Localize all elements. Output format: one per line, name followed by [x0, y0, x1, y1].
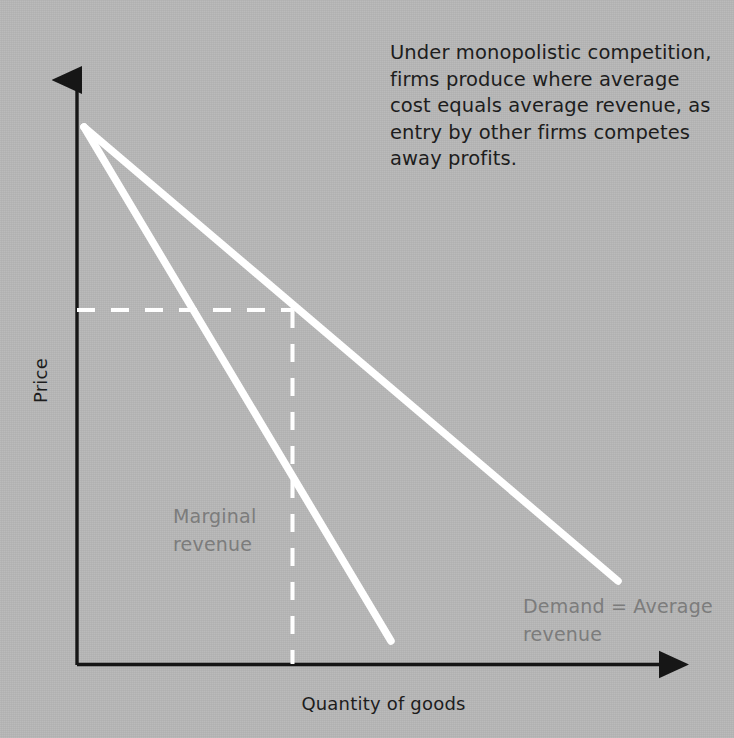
demand-average-revenue-label: Demand = Average revenue — [523, 592, 723, 648]
y-axis-title: Price — [30, 336, 51, 426]
demand-average-revenue-curve — [84, 127, 618, 581]
marginal-revenue-label: Marginal revenue — [173, 502, 323, 558]
x-axis-title: Quantity of goods — [77, 693, 690, 714]
explanatory-annotation: Under monopolistic competition, firms pr… — [390, 40, 720, 173]
monopolistic-competition-figure: Under monopolistic competition, firms pr… — [0, 0, 734, 738]
marginal-revenue-curve — [84, 127, 391, 641]
